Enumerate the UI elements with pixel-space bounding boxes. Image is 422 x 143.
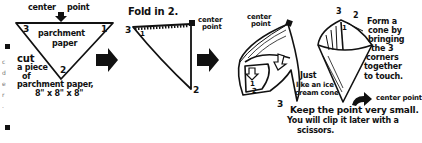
corner-2-label: 2 bbox=[353, 12, 359, 20]
corner-3-label: 3 bbox=[277, 100, 283, 109]
arrow-right-icon bbox=[96, 48, 118, 72]
point-label: point bbox=[251, 21, 271, 28]
form-cone-line7: to touch. bbox=[364, 73, 403, 81]
keep-point-small-line1: Keep the point very small. bbox=[290, 106, 419, 115]
paper-label: paper bbox=[52, 40, 77, 48]
form-cone-line3: bringing bbox=[368, 36, 404, 44]
corner-3-label: 3 bbox=[23, 25, 29, 34]
corner-3-label: 3 bbox=[125, 26, 131, 35]
center-point-marker bbox=[285, 19, 293, 27]
down-arrow-icon bbox=[55, 12, 67, 22]
corner-2-label: 2 bbox=[252, 88, 257, 95]
corner-2-label: 2 bbox=[60, 66, 66, 75]
side-note-line1: Just bbox=[300, 72, 316, 80]
point-label: point bbox=[67, 4, 90, 12]
corner-2-label: 2 bbox=[193, 86, 199, 95]
keep-point-small-line2: You will clip it later with a bbox=[287, 117, 399, 125]
point-label: point bbox=[202, 24, 222, 31]
parchment-label: parchment bbox=[38, 30, 85, 38]
corner-3-label: 3 bbox=[336, 8, 342, 16]
form-cone-line4: the 3 bbox=[371, 45, 393, 53]
fold-in-2-title: Fold in 2. bbox=[128, 7, 178, 17]
cut-instruction-line2: a piece bbox=[17, 64, 48, 72]
keep-point-small-line3: scissors. bbox=[297, 127, 334, 135]
form-cone-line1: Form a bbox=[367, 18, 397, 26]
form-cone-line2: cone by bbox=[368, 27, 402, 35]
cut-instruction-line5: 8" x 8" x 8" bbox=[35, 90, 83, 98]
form-cone-line6: together bbox=[364, 63, 402, 71]
corner-1-label: 1 bbox=[140, 31, 145, 38]
center-point-marker bbox=[189, 20, 195, 26]
side-note-line2: like an ice bbox=[296, 82, 334, 89]
side-note-line3: cream cone bbox=[295, 90, 339, 97]
cut-instruction-line4: parchment paper, bbox=[17, 81, 93, 89]
center-label: center bbox=[28, 4, 56, 12]
form-cone-line5: corners bbox=[366, 54, 399, 62]
corner-1-label: 1 bbox=[342, 25, 347, 32]
curved-arrow-icon bbox=[352, 92, 372, 106]
step3-cone-forming bbox=[239, 24, 300, 101]
corner-1-label: 1 bbox=[101, 25, 107, 34]
arrow-right-icon bbox=[197, 48, 219, 72]
center-point-label: center point bbox=[376, 95, 422, 102]
